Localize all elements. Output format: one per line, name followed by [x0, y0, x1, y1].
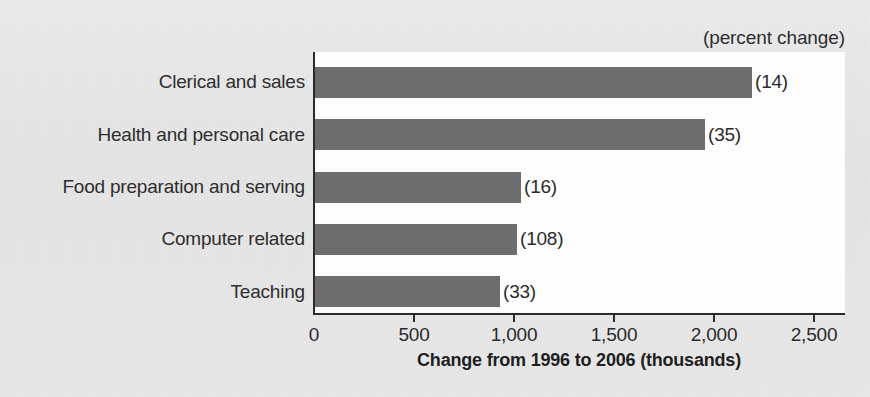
x-tick-label: 1,000: [491, 324, 538, 346]
bar: [315, 119, 705, 150]
x-tick-mark: [413, 313, 415, 322]
bar-row: (35): [315, 119, 860, 150]
x-tick-mark: [813, 313, 815, 322]
bar-data-label: (35): [705, 124, 741, 146]
bar: [315, 172, 521, 203]
category-label: Computer related: [0, 228, 305, 250]
bar: [315, 276, 500, 307]
bar-row: (108): [315, 224, 860, 255]
bars-group: (14)(35)(16)(108)(33): [315, 52, 860, 314]
x-tick-label: 500: [398, 324, 429, 346]
bar-data-label: (14): [752, 71, 788, 93]
category-label: Health and personal care: [0, 124, 305, 146]
category-label: Teaching: [0, 281, 305, 303]
x-axis-line: [313, 313, 845, 315]
bar-chart: (percent change) Clerical and salesHealt…: [0, 0, 870, 397]
x-tick-mark: [613, 313, 615, 322]
x-tick-label: 2,500: [791, 324, 838, 346]
unit-note: (percent change): [703, 27, 845, 49]
x-axis-title: Change from 1996 to 2006 (thousands): [313, 350, 845, 371]
bar: [315, 67, 752, 98]
x-tick-mark: [713, 313, 715, 322]
bar-row: (14): [315, 67, 860, 98]
bar-data-label: (108): [517, 228, 563, 250]
category-label: Food preparation and serving: [0, 176, 305, 198]
category-axis-labels: Clerical and salesHealth and personal ca…: [0, 52, 305, 314]
bar: [315, 224, 517, 255]
category-label: Clerical and sales: [0, 71, 305, 93]
x-tick-label: 1,500: [591, 324, 638, 346]
bar-data-label: (33): [500, 281, 536, 303]
bar-data-label: (16): [521, 176, 557, 198]
x-tick-label: 2,000: [691, 324, 738, 346]
x-tick-label: 0: [309, 324, 319, 346]
bar-row: (16): [315, 172, 860, 203]
y-axis-line: [313, 52, 315, 314]
x-tick-mark: [513, 313, 515, 322]
bar-row: (33): [315, 276, 860, 307]
